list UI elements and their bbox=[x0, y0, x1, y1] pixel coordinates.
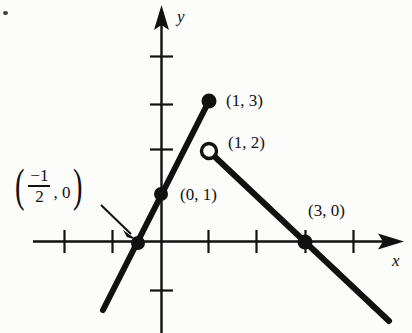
point-1-2-open bbox=[202, 144, 217, 159]
point-0-1 bbox=[154, 187, 168, 201]
frac-close-paren: ) bbox=[73, 166, 83, 206]
fraction-denominator: 2 bbox=[33, 187, 46, 205]
y-axis-label: y bbox=[177, 8, 185, 25]
graph-figure: (1, 3) (1, 2) (0, 1) (3, 0) ( −1 2 , 0 )… bbox=[0, 0, 412, 333]
x-axis-label: x bbox=[392, 252, 400, 269]
point-1-3 bbox=[202, 94, 217, 109]
label-point-3-0: (3, 0) bbox=[308, 202, 345, 219]
label-point-0-1: (0, 1) bbox=[180, 186, 217, 203]
annotation-arrow-line bbox=[101, 205, 131, 234]
label-point-neg-half-zero: ( −1 2 , 0 ) bbox=[12, 166, 86, 206]
fraction-numerator: −1 bbox=[28, 167, 50, 185]
label-point-1-3: (1, 3) bbox=[226, 92, 263, 109]
frac-open-paren: ( bbox=[15, 166, 25, 206]
point-3-0 bbox=[298, 235, 313, 250]
label-point-1-2: (1, 2) bbox=[228, 134, 265, 151]
fraction-neg-one-half: −1 2 bbox=[28, 167, 50, 205]
left-branch-segment bbox=[103, 101, 209, 310]
frac-comma-zero: , 0 bbox=[53, 183, 70, 206]
